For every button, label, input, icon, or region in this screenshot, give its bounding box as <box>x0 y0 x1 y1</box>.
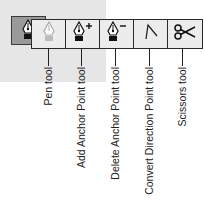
leader-line-add-anchor <box>81 48 82 66</box>
label-scissors-tool: Scissors tool <box>177 67 188 127</box>
scissors-icon <box>173 22 197 46</box>
label-convert-direction-point-tool: Convert Direction Point tool <box>144 67 155 195</box>
leader-line-scissors <box>182 48 183 66</box>
scissors-tool-button[interactable] <box>168 20 202 48</box>
label-add-anchor-point-tool: Add Anchor Point tool <box>76 67 87 168</box>
pen-tool-button[interactable] <box>32 20 66 48</box>
leader-line-pen <box>48 48 49 66</box>
pen-tools-flyout <box>31 19 203 49</box>
delete-anchor-point-tool-button[interactable] <box>100 20 134 48</box>
label-pen-tool: Pen tool <box>43 67 54 106</box>
leader-line-convert-direction <box>149 48 150 66</box>
convert-point-icon <box>142 22 160 46</box>
convert-direction-point-tool-button[interactable] <box>134 20 168 48</box>
pen-minus-icon <box>105 21 129 47</box>
pen-plus-icon <box>71 21 95 47</box>
pen-icon <box>40 21 58 47</box>
add-anchor-point-tool-button[interactable] <box>66 20 100 48</box>
label-delete-anchor-point-tool: Delete Anchor Point tool <box>110 67 121 180</box>
leader-line-delete-anchor <box>115 48 116 66</box>
